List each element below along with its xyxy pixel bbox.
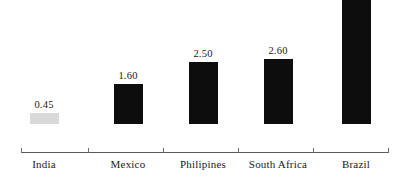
x-tick-label-brazil: Brazil — [311, 157, 401, 171]
x-tick-label-south-africa: South Africa — [233, 157, 323, 171]
bar-group-south-africa: 2.60 — [243, 45, 313, 124]
bar-south-africa — [264, 59, 293, 124]
bar-mexico — [114, 84, 143, 124]
bar-group-india: 0.45 — [9, 99, 79, 124]
x-tick-label-india: India — [0, 157, 89, 171]
bar-group-philipines: 2.50 — [168, 48, 238, 124]
bar-chart: 0.45 1.60 2.50 2.60 5.10 India Mexi — [0, 0, 402, 181]
x-axis-tick — [163, 148, 164, 153]
x-axis-tick — [238, 148, 239, 153]
plot-area: 0.45 1.60 2.50 2.60 5.10 — [0, 0, 402, 153]
x-axis-tick — [313, 148, 314, 153]
bar-brazil — [342, 0, 371, 124]
bar-value-label: 1.60 — [93, 70, 163, 82]
bar-philipines — [189, 62, 218, 124]
x-axis-tick — [21, 148, 22, 153]
bar-india — [30, 113, 59, 124]
bar-group-mexico: 1.60 — [93, 70, 163, 124]
bar-value-label: 2.60 — [243, 45, 313, 57]
x-axis-tick — [88, 148, 89, 153]
bar-value-label: 2.50 — [168, 48, 238, 60]
x-axis-tick — [388, 148, 389, 153]
x-axis-line — [21, 152, 389, 153]
bar-group-brazil: 5.10 — [321, 0, 391, 124]
bar-value-label: 0.45 — [9, 99, 79, 111]
